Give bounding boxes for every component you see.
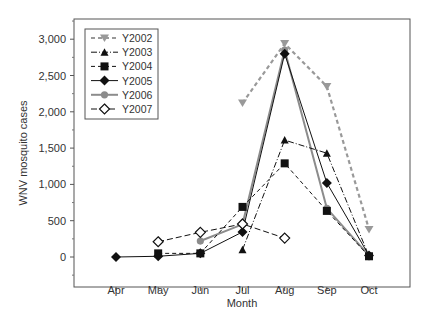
- legend-label: Y2006: [122, 89, 153, 101]
- x-tick-label: Sep: [317, 284, 337, 296]
- marker-square: [323, 207, 331, 215]
- y-tick-label: 500: [48, 215, 66, 227]
- x-tick-label: Aug: [275, 284, 295, 296]
- marker-square: [239, 203, 247, 211]
- x-tick-label: Oct: [360, 284, 377, 296]
- x-tick-label: May: [148, 284, 169, 296]
- marker-square: [101, 62, 109, 70]
- x-axis-label: Month: [227, 297, 258, 309]
- legend-label: Y2002: [122, 32, 153, 44]
- x-tick-label: Apr: [107, 284, 124, 296]
- y-tick-label: 1,000: [38, 178, 66, 190]
- marker-square: [281, 159, 289, 167]
- legend-label: Y2007: [122, 103, 153, 115]
- line-chart: 05001,0001,5002,0002,5003,000 AprMayJunJ…: [0, 0, 434, 324]
- legend: Y2002Y2003Y2004Y2005Y2006Y2007: [85, 29, 158, 119]
- y-axis: 05001,0001,5002,0002,5003,000: [38, 21, 74, 275]
- legend-label: Y2005: [122, 75, 153, 87]
- y-tick-label: 0: [60, 251, 66, 263]
- x-tick-label: Jun: [191, 284, 209, 296]
- legend-label: Y2003: [122, 46, 153, 58]
- legend-label: Y2004: [122, 60, 153, 72]
- x-tick-label: Jul: [235, 284, 249, 296]
- y-tick-label: 1,500: [38, 142, 66, 154]
- y-tick-label: 2,500: [38, 70, 66, 82]
- y-axis-label: WNV mosquito cases: [17, 100, 29, 206]
- marker-circle: [197, 237, 204, 244]
- y-tick-label: 2,000: [38, 106, 66, 118]
- marker-circle: [101, 91, 108, 98]
- y-tick-label: 3,000: [38, 33, 66, 45]
